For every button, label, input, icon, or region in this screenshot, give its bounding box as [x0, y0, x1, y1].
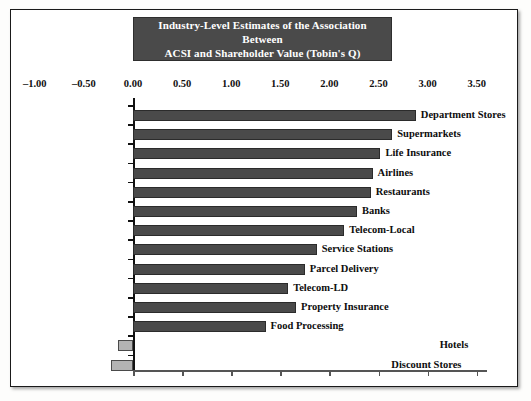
bar-category-label: Airlines: [378, 167, 414, 179]
x-axis-tick: [428, 370, 430, 376]
x-tick-label: 0.50: [173, 78, 191, 89]
category-axis-tick: [128, 105, 133, 107]
x-tick-label: 0.00: [124, 78, 142, 89]
bar-category-label: Restaurants: [376, 186, 430, 198]
category-axis-tick: [128, 163, 133, 165]
x-axis-tick-labels: –1.00–0.500.000.501.001.502.002.503.003.…: [0, 78, 531, 94]
figure-page: Industry-Level Estimates of the Associat…: [0, 0, 531, 401]
x-tick-label: 3.50: [468, 78, 486, 89]
bar-category-label: Service Stations: [322, 243, 393, 255]
bar[interactable]: [133, 244, 317, 255]
bar-row: Service Stations: [133, 244, 487, 255]
chart-title-line-1: Industry-Level Estimates of the Associat…: [134, 18, 391, 46]
x-axis-tick: [477, 370, 479, 376]
x-axis-tick: [280, 370, 282, 376]
x-tick-label: –1.00: [23, 78, 47, 89]
bar-row: Property Insurance: [133, 302, 487, 313]
bar[interactable]: [133, 302, 296, 313]
category-axis-tick: [128, 335, 133, 337]
category-axis-tick: [128, 316, 133, 318]
x-axis-line: [133, 370, 487, 372]
bar-category-label: Telecom-Local: [349, 224, 415, 236]
category-axis-tick: [128, 220, 133, 222]
bar-category-label: Discount Stores: [391, 359, 461, 371]
bar-row: Supermarkets: [133, 129, 487, 140]
bar-row: Discount Stores: [133, 360, 487, 371]
bar-category-label: Telecom-LD: [293, 282, 348, 294]
bar-row: Banks: [133, 206, 487, 217]
x-axis-tick: [379, 370, 381, 376]
bar-row: Food Processing: [133, 321, 487, 332]
category-axis-tick: [128, 124, 133, 126]
bar[interactable]: [133, 283, 288, 294]
bar-row: Telecom-LD: [133, 283, 487, 294]
category-axis-tick: [128, 201, 133, 203]
category-axis-tick: [128, 278, 133, 280]
x-tick-label: 3.00: [418, 78, 436, 89]
bar[interactable]: [111, 360, 133, 371]
category-axis-tick: [128, 259, 133, 261]
bar-row: Department Stores: [133, 110, 487, 121]
category-axis-tick: [128, 143, 133, 145]
x-tick-label: –0.50: [72, 78, 96, 89]
bar[interactable]: [133, 148, 380, 159]
bar-row: Life Insurance: [133, 148, 487, 159]
chart-title-line-2: ACSI and Shareholder Value (Tobin's Q): [134, 46, 391, 60]
bar-row: Restaurants: [133, 187, 487, 198]
x-tick-label: 1.00: [222, 78, 240, 89]
category-axis-tick: [128, 297, 133, 299]
bar[interactable]: [133, 225, 344, 236]
x-tick-label: 2.50: [369, 78, 387, 89]
bar[interactable]: [133, 168, 373, 179]
category-axis-tick: [128, 239, 133, 241]
x-axis-tick: [133, 370, 135, 376]
category-axis-tick: [128, 182, 133, 184]
bar-category-label: Food Processing: [271, 320, 344, 332]
x-axis-tick: [329, 370, 331, 376]
chart-title-plate: Industry-Level Estimates of the Associat…: [133, 17, 392, 61]
bar-category-label: Hotels: [440, 339, 469, 351]
bar[interactable]: [118, 340, 133, 351]
bar[interactable]: [133, 321, 266, 332]
bar-row: Telecom-Local: [133, 225, 487, 236]
x-tick-label: 2.00: [320, 78, 338, 89]
bar-row: Parcel Delivery: [133, 264, 487, 275]
bar[interactable]: [133, 264, 305, 275]
bar[interactable]: [133, 110, 416, 121]
bar-row: Airlines: [133, 168, 487, 179]
plot-area: Department StoresSupermarketsLife Insura…: [133, 98, 487, 370]
bar-category-label: Banks: [362, 205, 390, 217]
bar-category-label: Property Insurance: [301, 301, 389, 313]
bar[interactable]: [133, 129, 392, 140]
bar-category-label: Supermarkets: [397, 128, 461, 140]
category-axis-tick: [128, 355, 133, 357]
x-axis-tick: [231, 370, 233, 376]
bar[interactable]: [133, 187, 371, 198]
bar-category-label: Parcel Delivery: [310, 263, 379, 275]
x-axis-tick: [182, 370, 184, 376]
bar-category-label: Department Stores: [421, 109, 506, 121]
bar-row: Hotels: [133, 340, 487, 351]
x-tick-label: 1.50: [271, 78, 289, 89]
bar-category-label: Life Insurance: [385, 147, 451, 159]
bar[interactable]: [133, 206, 357, 217]
